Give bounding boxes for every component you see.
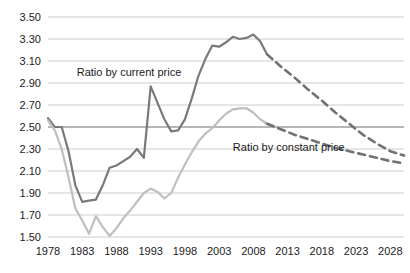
x-axis-tick-label: 2028 [378, 245, 402, 257]
y-axis-tick-label: 1.50 [20, 231, 41, 243]
x-axis-tick-labels: 1978198319881993199820032008201320182023… [36, 245, 403, 257]
y-axis-tick-label: 2.70 [20, 99, 41, 111]
x-axis-tick-label: 1993 [138, 245, 162, 257]
chart-container: 1.501.701.902.102.302.502.702.903.103.30… [0, 0, 410, 273]
chart-background [0, 0, 410, 273]
x-axis-tick-label: 2003 [207, 245, 231, 257]
y-axis-tick-label: 1.70 [20, 209, 41, 221]
x-axis-tick-label: 2008 [241, 245, 265, 257]
x-axis-tick-label: 1988 [104, 245, 128, 257]
y-axis-tick-label: 2.90 [20, 77, 41, 89]
x-axis-tick-label: 1998 [173, 245, 197, 257]
x-axis-tick-label: 1978 [36, 245, 60, 257]
y-axis-tick-label: 3.50 [20, 11, 41, 23]
y-axis-tick-label: 1.90 [20, 187, 41, 199]
y-axis-tick-label: 3.10 [20, 55, 41, 67]
x-axis-tick-label: 2023 [344, 245, 368, 257]
series-annotation-label: Ratio by current price [77, 66, 182, 78]
x-axis-tick-label: 2013 [275, 245, 299, 257]
line-chart: 1.501.701.902.102.302.502.702.903.103.30… [0, 0, 410, 273]
y-axis-tick-label: 2.10 [20, 165, 41, 177]
x-axis-tick-label: 2018 [310, 245, 334, 257]
x-axis-tick-label: 1983 [70, 245, 94, 257]
y-axis-tick-label: 2.50 [20, 121, 41, 133]
y-axis-tick-label: 3.30 [20, 33, 41, 45]
series-annotation-label: Ratio by constant price [233, 141, 345, 153]
y-axis-tick-label: 2.30 [20, 143, 41, 155]
